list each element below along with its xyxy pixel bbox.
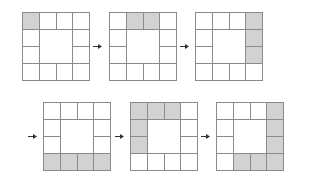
empty-cell-r3-c3 xyxy=(245,63,263,81)
empty-cell-r2-c0 xyxy=(109,46,127,64)
shaded-cell-r0-c1 xyxy=(126,12,144,30)
empty-cell-r3-c0 xyxy=(22,63,40,81)
empty-cell-r0-c3 xyxy=(180,102,198,120)
shaded-cell-r1-c3 xyxy=(245,29,263,47)
right-arrow-icon xyxy=(180,44,189,49)
empty-cell-r0-c2 xyxy=(250,102,267,120)
empty-cell-r3-c2 xyxy=(143,63,160,81)
empty-cell-r3-c1 xyxy=(147,153,165,171)
empty-cell-r1-c0 xyxy=(43,119,61,137)
shaded-cell-r3-c2 xyxy=(250,153,267,171)
shaded-cell-r0-c0 xyxy=(130,102,148,120)
empty-cell-r0-c3 xyxy=(72,12,90,30)
empty-cell-r3-c3 xyxy=(159,63,177,81)
grid-step-4 xyxy=(43,102,110,170)
empty-cell-r2-c3 xyxy=(159,46,177,64)
empty-cell-r0-c2 xyxy=(77,102,94,120)
shaded-cell-r3-c1 xyxy=(233,153,251,171)
empty-cell-r3-c0 xyxy=(130,153,148,171)
shaded-cell-r3-c3 xyxy=(266,153,284,171)
grid-step-6 xyxy=(216,102,283,170)
empty-cell-r0-c2 xyxy=(229,12,246,30)
empty-cell-r2-c0 xyxy=(195,46,213,64)
empty-cell-r2-c0 xyxy=(43,136,61,154)
empty-cell-r0-c1 xyxy=(233,102,251,120)
shaded-cell-r2-c3 xyxy=(245,46,263,64)
right-arrow-icon xyxy=(28,134,37,139)
empty-cell-r0-c3 xyxy=(93,102,111,120)
empty-cell-r2-c3 xyxy=(93,136,111,154)
empty-cell-r0-c0 xyxy=(109,12,127,30)
empty-cell-r0-c0 xyxy=(216,102,234,120)
empty-cell-r0-c3 xyxy=(159,12,177,30)
shaded-cell-r0-c1 xyxy=(147,102,165,120)
empty-cell-r0-c1 xyxy=(39,12,57,30)
right-arrow-icon xyxy=(201,134,210,139)
shaded-cell-r0-c2 xyxy=(143,12,160,30)
grid-step-1 xyxy=(22,12,89,80)
shaded-cell-r3-c1 xyxy=(60,153,78,171)
empty-cell-r1-c0 xyxy=(22,29,40,47)
grid-step-5 xyxy=(130,102,197,170)
shaded-cell-r0-c0 xyxy=(22,12,40,30)
empty-cell-r1-c3 xyxy=(93,119,111,137)
empty-cell-r3-c1 xyxy=(212,63,230,81)
empty-cell-r2-c0 xyxy=(216,136,234,154)
empty-cell-r0-c1 xyxy=(60,102,78,120)
empty-cell-r3-c1 xyxy=(126,63,144,81)
empty-cell-r3-c1 xyxy=(39,63,57,81)
shaded-cell-r2-c0 xyxy=(130,136,148,154)
empty-cell-r1-c3 xyxy=(180,119,198,137)
shaded-cell-r0-c3 xyxy=(245,12,263,30)
shaded-cell-r2-c3 xyxy=(266,136,284,154)
empty-cell-r0-c1 xyxy=(212,12,230,30)
empty-cell-r0-c2 xyxy=(56,12,73,30)
shaded-cell-r0-c2 xyxy=(164,102,181,120)
empty-cell-r3-c0 xyxy=(109,63,127,81)
shaded-cell-r3-c2 xyxy=(77,153,94,171)
shaded-cell-r3-c3 xyxy=(93,153,111,171)
empty-cell-r1-c0 xyxy=(216,119,234,137)
empty-cell-r2-c3 xyxy=(72,46,90,64)
shaded-cell-r1-c0 xyxy=(130,119,148,137)
shaded-cell-r3-c0 xyxy=(43,153,61,171)
grid-step-3 xyxy=(195,12,262,80)
grid-step-2 xyxy=(109,12,176,80)
empty-cell-r2-c3 xyxy=(180,136,198,154)
empty-cell-r2-c0 xyxy=(22,46,40,64)
empty-cell-r3-c2 xyxy=(229,63,246,81)
empty-cell-r0-c0 xyxy=(43,102,61,120)
empty-cell-r1-c3 xyxy=(159,29,177,47)
right-arrow-icon xyxy=(93,44,102,49)
empty-cell-r3-c3 xyxy=(72,63,90,81)
shaded-cell-r1-c3 xyxy=(266,119,284,137)
empty-cell-r1-c0 xyxy=(109,29,127,47)
shaded-cell-r0-c3 xyxy=(266,102,284,120)
empty-cell-r3-c2 xyxy=(56,63,73,81)
empty-cell-r1-c3 xyxy=(72,29,90,47)
empty-cell-r3-c0 xyxy=(216,153,234,171)
empty-cell-r3-c3 xyxy=(180,153,198,171)
right-arrow-icon xyxy=(115,134,124,139)
empty-cell-r1-c0 xyxy=(195,29,213,47)
empty-cell-r0-c0 xyxy=(195,12,213,30)
empty-cell-r3-c2 xyxy=(164,153,181,171)
empty-cell-r3-c0 xyxy=(195,63,213,81)
